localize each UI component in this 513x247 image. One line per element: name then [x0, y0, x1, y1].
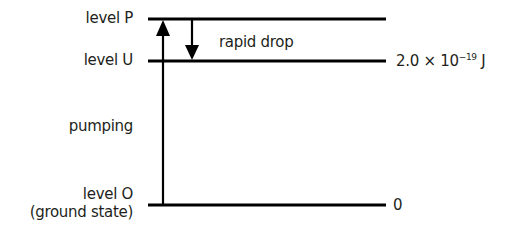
level-u-label: level U — [3, 51, 133, 69]
level-u-energy-label: 2.0 × 10−19 J — [396, 52, 485, 70]
ground-state-label: (ground state) — [3, 203, 133, 221]
rapid-drop-arrow-icon — [185, 19, 199, 60]
energy-exponent: −19 — [459, 52, 477, 62]
pumping-label: pumping — [3, 117, 133, 135]
level-o-label: level O — [3, 185, 133, 203]
energy-mantissa: 2.0 × 10 — [396, 52, 459, 70]
pumping-arrow-icon — [156, 20, 170, 205]
energy-unit: J — [477, 52, 486, 70]
level-o-energy-label: 0 — [393, 196, 402, 214]
level-p-label: level P — [3, 9, 133, 27]
rapid-drop-label: rapid drop — [219, 33, 293, 51]
